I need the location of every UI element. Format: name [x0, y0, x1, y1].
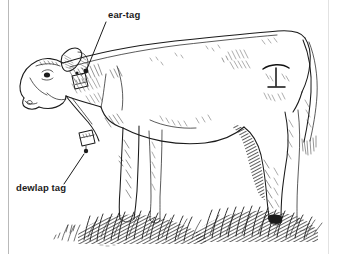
- leader-ear-tag: [84, 22, 106, 73]
- brand-mark: [263, 65, 289, 101]
- ear-tag: [72, 71, 88, 89]
- torso-texture: [150, 38, 277, 128]
- grass-foreground: [54, 206, 322, 246]
- figure-root: .ln { fill:none; stroke:#1b1b1b; stroke-…: [0, 0, 337, 254]
- front-legs: [105, 114, 162, 223]
- cow-head: [20, 59, 66, 110]
- leader-dewlap-tag: [64, 154, 84, 184]
- cow-dewlap: [66, 96, 99, 141]
- cow-tail: [302, 40, 317, 155]
- label-dewlap-tag: dewlap tag: [16, 182, 66, 193]
- neck-shading: [70, 64, 123, 110]
- dewlap-tag: [79, 130, 95, 153]
- label-ear-tag: ear-tag: [108, 9, 140, 20]
- cow-illustration: .ln { fill:none; stroke:#1b1b1b; stroke-…: [0, 0, 337, 254]
